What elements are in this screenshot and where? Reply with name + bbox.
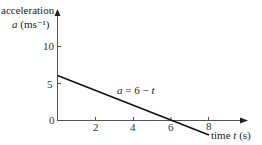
- series-annotation: a = 6 − t: [117, 84, 154, 96]
- y-axis-label-line1: acceleration: [1, 4, 54, 16]
- annotation-rest: = 6 −: [123, 84, 152, 96]
- y-axis-unit: (ms⁻¹): [20, 18, 49, 30]
- y-axis-label-line2: a (ms⁻¹): [12, 18, 50, 30]
- x-tick-label-4: 4: [130, 121, 136, 133]
- y-tick-label-0: 0: [49, 114, 55, 126]
- y-tick-label-10: 10: [43, 40, 54, 52]
- y-axis-arrow-icon: [55, 9, 61, 16]
- y-axis-variable: a: [12, 18, 18, 30]
- x-axis-unit: (s): [239, 129, 251, 141]
- x-tick-label-2: 2: [93, 121, 99, 133]
- x-axis-label: time t (s): [211, 129, 251, 141]
- x-axis-arrow-icon: [240, 118, 248, 124]
- x-tick-label-6: 6: [168, 121, 174, 133]
- x-axis-label-text: time: [211, 129, 231, 141]
- annotation-var-t: t: [151, 84, 154, 96]
- x-axis-variable: t: [233, 129, 236, 141]
- y-tick-label-5: 5: [47, 78, 53, 90]
